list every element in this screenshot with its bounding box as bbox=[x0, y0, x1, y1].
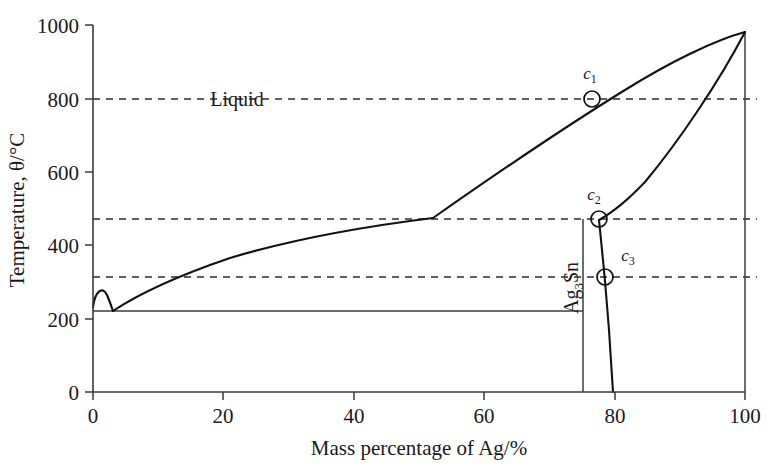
y-tick-label-600: 600 bbox=[48, 161, 80, 185]
c3-label-sub: 3 bbox=[629, 254, 635, 268]
x-axis-title: Mass percentage of Ag/% bbox=[311, 436, 527, 460]
phase-diagram-canvas: 1000 800 600 400 200 0 0 20 40 60 80 100… bbox=[0, 0, 768, 472]
sn-rich-liquidus-curve bbox=[93, 290, 113, 311]
y-tick-label-200: 200 bbox=[48, 308, 80, 332]
x-axis-ticks bbox=[93, 392, 745, 400]
y-axis-ticks bbox=[85, 25, 93, 392]
x-tick-label-60: 60 bbox=[474, 404, 495, 428]
c1-label-sub: 1 bbox=[591, 72, 597, 86]
svg-text:Ag3Sn: Ag3Sn bbox=[560, 262, 586, 314]
y-tick-label-800: 800 bbox=[48, 88, 80, 112]
ag-rich-solidus-curve bbox=[599, 32, 745, 220]
marked-point-c1: c1 bbox=[583, 64, 600, 107]
ag3sn-label-ag: Ag bbox=[560, 290, 583, 314]
c2-label-sub: 2 bbox=[595, 193, 601, 207]
y-tick-label-400: 400 bbox=[48, 234, 80, 258]
x-tick-label-20: 20 bbox=[213, 404, 234, 428]
x-tick-label-0: 0 bbox=[88, 404, 99, 428]
phase-diagram-figure: 1000 800 600 400 200 0 0 20 40 60 80 100… bbox=[0, 0, 768, 472]
isotherm-dashed-lines bbox=[93, 99, 757, 277]
ag3sn-solvus-curve bbox=[599, 220, 613, 392]
y-tick-label-0: 0 bbox=[69, 381, 80, 405]
svg-text:c3: c3 bbox=[621, 246, 635, 268]
ag3sn-compound-label: Ag3Sn bbox=[560, 262, 586, 314]
ag3sn-label-sn: Sn bbox=[560, 262, 582, 283]
x-tick-label-80: 80 bbox=[605, 404, 626, 428]
x-tick-label-40: 40 bbox=[344, 404, 365, 428]
y-tick-label-1000: 1000 bbox=[37, 14, 79, 38]
svg-text:c2: c2 bbox=[587, 185, 601, 207]
ag3sn-liquidus-curve bbox=[113, 218, 433, 311]
x-tick-label-100: 100 bbox=[729, 404, 761, 428]
svg-text:c1: c1 bbox=[583, 64, 597, 86]
marked-point-c2: c2 bbox=[587, 185, 607, 227]
y-axis-title: Temperature, θ/°C bbox=[5, 133, 29, 288]
liquid-region-label: Liquid bbox=[210, 88, 263, 111]
